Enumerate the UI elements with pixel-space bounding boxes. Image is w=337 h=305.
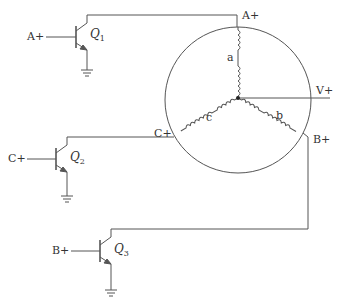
winding-label-b: b (276, 110, 283, 121)
terminal-label-a: A+ (242, 10, 259, 21)
winding-label-a: a (227, 52, 234, 63)
input-label-a: A+ (27, 31, 44, 42)
q2-label: Q2 (70, 151, 85, 166)
input-label-c: C+ (8, 153, 26, 164)
circuit-schematic (0, 0, 337, 305)
input-label-b: B+ (52, 245, 69, 256)
q3-label: Q3 (114, 243, 129, 258)
circuit-diagram: A+ Q1 C+ Q2 B+ Q3 A+ V+ B+ C+ a b c (0, 0, 337, 305)
terminal-label-v: V+ (316, 85, 333, 96)
transistor-q3 (71, 229, 117, 296)
wire-q3-to-b (111, 133, 308, 229)
terminal-label-b: B+ (313, 134, 330, 145)
q1-label: Q1 (90, 28, 105, 43)
transistor-q2 (27, 137, 73, 202)
wire-q1-to-a (87, 15, 237, 27)
terminal-label-c: C+ (154, 128, 172, 139)
transistor-q1 (46, 15, 93, 76)
winding-b (238, 96, 297, 131)
neutral-node (236, 96, 240, 100)
winding-label-c: c (206, 112, 212, 123)
winding-a (238, 27, 240, 98)
